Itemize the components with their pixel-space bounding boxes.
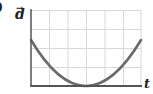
plot-area	[0, 0, 153, 94]
grid-lines	[31, 10, 141, 86]
